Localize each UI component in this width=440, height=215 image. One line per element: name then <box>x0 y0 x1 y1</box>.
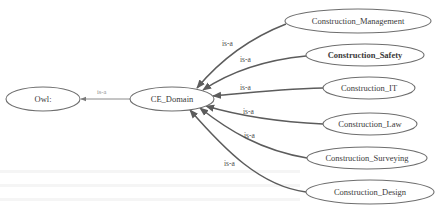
node-ce-domain-label: CE_Domain <box>151 94 194 104</box>
node-it-label: Construction_IT <box>341 83 398 93</box>
node-surveying-label: Construction_Surveying <box>325 153 409 163</box>
edge-label-it: is-a <box>240 83 252 92</box>
background-bleed-through <box>0 170 300 201</box>
edge-label-management: is-a <box>222 39 234 48</box>
node-owl-label: Owl: <box>35 94 52 104</box>
node-construction-design[interactable]: Construction_Design <box>306 180 434 204</box>
node-construction-surveying[interactable]: Construction_Surveying <box>307 147 427 169</box>
edge-label-surveying: is-a <box>244 131 256 140</box>
edge-label-root: is-a <box>97 88 107 95</box>
node-construction-management[interactable]: Construction_Management <box>285 9 431 33</box>
node-management-label: Construction_Management <box>312 16 405 26</box>
node-owl[interactable]: Owl: <box>6 87 80 111</box>
edge-label-design: is-a <box>224 159 236 168</box>
node-construction-law[interactable]: Construction_Law <box>323 113 417 135</box>
node-ce-domain[interactable]: CE_Domain <box>130 87 214 111</box>
edge-law: is-a <box>206 106 323 124</box>
edge-ce-domain-to-owl: is-a <box>81 88 130 99</box>
node-construction-safety[interactable]: Construction_Safety <box>306 44 424 66</box>
node-construction-it[interactable]: Construction_IT <box>323 77 415 99</box>
node-law-label: Construction_Law <box>338 119 402 129</box>
edge-design: is-a <box>190 110 306 192</box>
edge-safety: is-a <box>203 55 306 90</box>
node-design-label: Construction_Design <box>334 187 407 197</box>
edge-label-safety: is-a <box>240 55 252 64</box>
edge-it: is-a <box>213 83 323 96</box>
edge-label-law: is-a <box>243 107 255 116</box>
ontology-diagram: is-a is-a is-a is-a is-a is-a is-a Owl: … <box>0 0 440 215</box>
node-safety-label: Construction_Safety <box>328 50 403 60</box>
